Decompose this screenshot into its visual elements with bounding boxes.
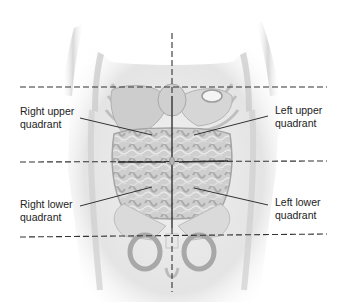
label-line-2: quadrant	[275, 117, 322, 130]
label-line-2: quadrant	[20, 118, 74, 131]
label-line-2: quadrant	[275, 209, 321, 222]
label-right-lower-quadrant: Right lower quadrant	[20, 198, 73, 224]
label-left-upper-quadrant: Left upper quadrant	[275, 104, 322, 130]
label-line-1: Right upper	[20, 105, 74, 118]
label-left-lower-quadrant: Left lower quadrant	[275, 196, 321, 222]
abdominal-quadrants-diagram: Right upper quadrant Left upper quadrant…	[0, 0, 344, 302]
umbilical-solid-right	[179, 161, 228, 162]
umbilicus	[170, 157, 175, 165]
diagram-canvas	[0, 0, 344, 302]
label-line-1: Left upper	[275, 104, 322, 117]
label-line-1: Right lower	[20, 198, 73, 211]
label-right-upper-quadrant: Right upper quadrant	[20, 105, 74, 131]
label-line-2: quadrant	[20, 211, 73, 224]
label-line-1: Left lower	[275, 196, 321, 209]
